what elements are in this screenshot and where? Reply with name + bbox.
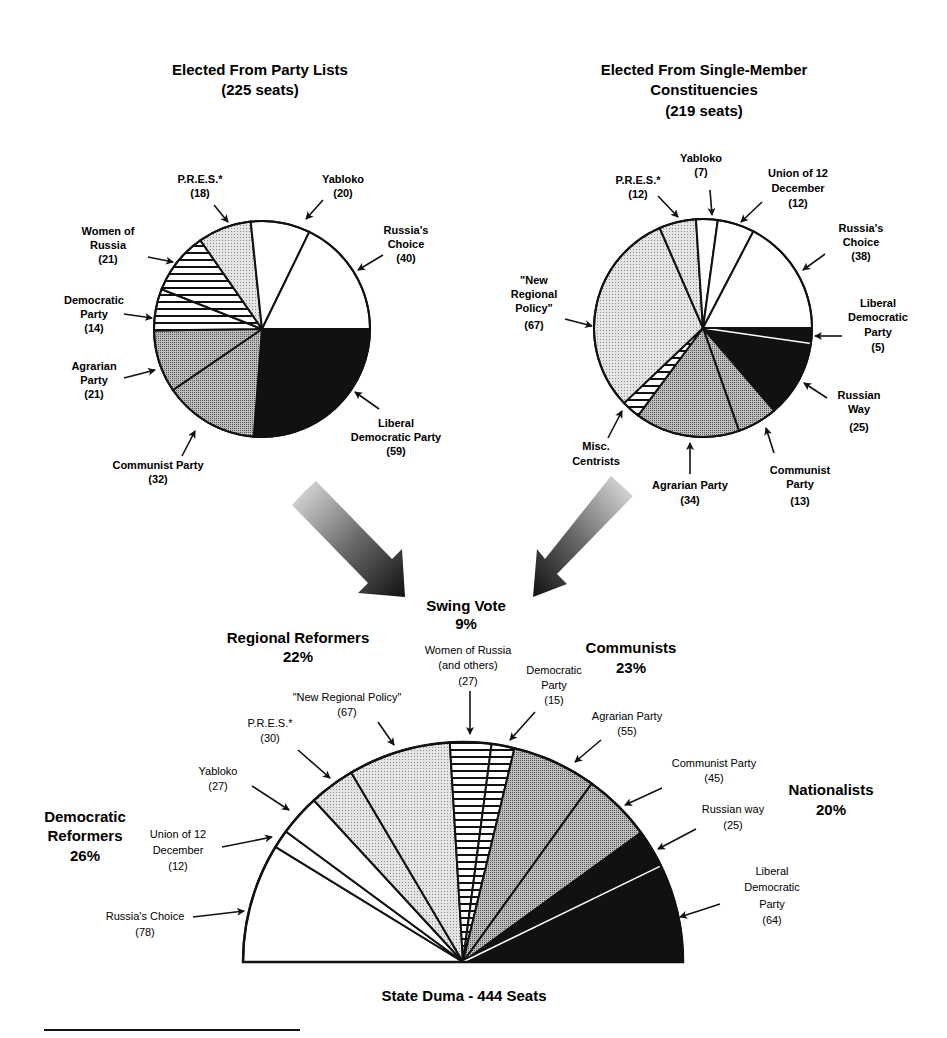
single-member-title: Elected From Single-Member Constituencie… — [601, 61, 808, 119]
state-duma-semicircle — [243, 742, 683, 962]
slice-liberal-democratic-party — [254, 329, 370, 437]
left-flow-arrow — [292, 481, 405, 597]
svg-text:Democratic: Democratic — [848, 311, 908, 323]
svg-text:(13): (13) — [790, 495, 810, 507]
svg-text:Agrarian Party: Agrarian Party — [592, 710, 663, 722]
svg-text:Yabloko: Yabloko — [199, 765, 238, 777]
svg-text:Russian: Russian — [838, 389, 881, 401]
svg-text:Party: Party — [541, 679, 567, 691]
svg-text:Nationalists: Nationalists — [788, 781, 873, 798]
svg-text:Liberal: Liberal — [755, 865, 788, 877]
svg-text:Democratic: Democratic — [526, 664, 582, 676]
figure-canvas: Elected From Party Lists (225 seats) P.R… — [0, 0, 947, 1038]
svg-text:(34): (34) — [680, 494, 700, 506]
svg-text:(25): (25) — [849, 421, 869, 433]
svg-text:(225 seats): (225 seats) — [221, 81, 299, 98]
svg-text:Party: Party — [80, 308, 108, 320]
single-member-pie — [594, 219, 812, 437]
svg-text:(12): (12) — [788, 197, 808, 209]
svg-text:(64): (64) — [762, 914, 782, 926]
svg-text:Yabloko: Yabloko — [322, 173, 364, 185]
svg-text:Way: Way — [848, 403, 871, 415]
svg-text:Party: Party — [80, 374, 108, 386]
svg-text:Democratic: Democratic — [744, 881, 800, 893]
svg-text:Choice: Choice — [388, 238, 425, 250]
svg-text:Misc.: Misc. — [582, 440, 610, 452]
svg-text:20%: 20% — [816, 801, 846, 818]
svg-text:Communist Party: Communist Party — [672, 757, 757, 769]
svg-text:(67): (67) — [524, 319, 544, 331]
svg-text:Regional Reformers: Regional Reformers — [227, 629, 370, 646]
svg-text:Centrists: Centrists — [572, 455, 620, 467]
svg-text:(21): (21) — [84, 388, 104, 400]
svg-text:Reformers: Reformers — [47, 827, 122, 844]
svg-text:9%: 9% — [455, 615, 477, 632]
svg-text:(21): (21) — [98, 253, 118, 265]
svg-text:(78): (78) — [135, 926, 155, 938]
svg-text:Women of Russia: Women of Russia — [425, 644, 512, 656]
svg-text:Elected From Party Lists: Elected From Party Lists — [172, 61, 348, 78]
party-list-pie — [154, 221, 370, 437]
svg-text:(20): (20) — [333, 187, 353, 199]
svg-text:Russia's Choice: Russia's Choice — [106, 910, 185, 922]
svg-text:December: December — [153, 844, 204, 856]
svg-text:Russia's: Russia's — [839, 222, 884, 234]
svg-text:Choice: Choice — [843, 236, 880, 248]
svg-text:December: December — [771, 182, 825, 194]
svg-text:(27): (27) — [208, 780, 228, 792]
svg-text:(38): (38) — [851, 250, 871, 262]
svg-text:Constituencies: Constituencies — [650, 81, 758, 98]
svg-text:Union of 12: Union of 12 — [768, 167, 828, 179]
svg-text:23%: 23% — [616, 659, 646, 676]
svg-text:(25): (25) — [723, 819, 743, 831]
svg-text:P.R.E.S.*: P.R.E.S.* — [247, 717, 293, 729]
svg-text:(14): (14) — [84, 322, 104, 334]
svg-text:(40): (40) — [396, 252, 416, 264]
svg-text:(45): (45) — [704, 772, 724, 784]
svg-text:P.R.E.S.*: P.R.E.S.* — [615, 174, 661, 186]
svg-text:Women of: Women of — [82, 225, 135, 237]
svg-text:P.R.E.S.*: P.R.E.S.* — [177, 173, 223, 185]
right-flow-arrow — [533, 476, 633, 597]
svg-text:Democratic: Democratic — [64, 294, 124, 306]
svg-text:Russia: Russia — [90, 239, 127, 251]
svg-text:(and others): (and others) — [438, 659, 497, 671]
svg-text:(59): (59) — [386, 445, 406, 457]
svg-text:Swing Vote: Swing Vote — [426, 597, 506, 614]
svg-text:Party: Party — [786, 478, 814, 490]
svg-text:Democratic Party: Democratic Party — [351, 431, 442, 443]
svg-text:Liberal: Liberal — [378, 417, 414, 429]
svg-text:Union of 12: Union of 12 — [150, 828, 206, 840]
svg-text:Liberal: Liberal — [860, 297, 896, 309]
svg-text:Policy": Policy" — [515, 302, 553, 314]
svg-text:"New Regional Policy": "New Regional Policy" — [293, 691, 402, 703]
state-duma-title: State Duma - 444 Seats — [381, 987, 546, 1004]
flow-arrows — [292, 476, 633, 597]
svg-text:Democratic: Democratic — [44, 808, 126, 825]
svg-text:Agrarian: Agrarian — [71, 360, 117, 372]
svg-text:(12): (12) — [168, 860, 188, 872]
svg-text:(55): (55) — [617, 725, 637, 737]
svg-text:(12): (12) — [628, 188, 648, 200]
svg-text:Russian way: Russian way — [702, 803, 765, 815]
svg-text:Communists: Communists — [586, 639, 677, 656]
svg-text:(27): (27) — [458, 675, 478, 687]
svg-text:"New: "New — [520, 274, 548, 286]
svg-text:Communist: Communist — [770, 464, 831, 476]
svg-text:(32): (32) — [148, 473, 168, 485]
svg-text:Communist Party: Communist Party — [112, 459, 204, 471]
svg-text:(18): (18) — [190, 187, 210, 199]
svg-text:(219 seats): (219 seats) — [665, 102, 743, 119]
svg-text:26%: 26% — [70, 847, 100, 864]
svg-text:(15): (15) — [544, 694, 564, 706]
svg-text:Yabloko: Yabloko — [680, 152, 722, 164]
svg-text:22%: 22% — [283, 648, 313, 665]
svg-text:Regional: Regional — [511, 288, 557, 300]
svg-text:(7): (7) — [694, 166, 708, 178]
svg-text:(30): (30) — [260, 732, 280, 744]
svg-text:Party: Party — [864, 326, 892, 338]
svg-text:Party: Party — [759, 898, 785, 910]
svg-text:Agrarian Party: Agrarian Party — [652, 479, 729, 491]
svg-text:Elected From Single-Member: Elected From Single-Member — [601, 61, 808, 78]
svg-text:(67): (67) — [337, 706, 357, 718]
